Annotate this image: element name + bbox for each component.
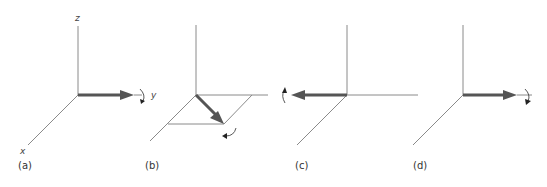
panel-label-c: (c) <box>295 160 308 171</box>
x-axis-label: x <box>19 146 26 156</box>
y-axis-label: y <box>150 90 157 100</box>
vector-rotation-figure: z y x (a) (b) (c) (d) <box>0 0 547 187</box>
panel-d: (d) <box>413 25 532 171</box>
x-axis <box>28 95 78 145</box>
z-axis-label: z <box>74 13 80 23</box>
panel-label-d: (d) <box>413 160 427 171</box>
diagonal-vector <box>196 95 216 115</box>
vector-arrowhead <box>291 90 305 100</box>
vector-arrowhead <box>503 90 517 100</box>
panel-label-b: (b) <box>145 160 159 171</box>
x-axis <box>413 95 463 145</box>
panel-a: z y x (a) <box>18 13 157 171</box>
x-axis <box>297 95 347 145</box>
panel-c: (c) <box>282 25 417 171</box>
x-axis <box>150 95 196 141</box>
panel-b: (b) <box>145 25 268 171</box>
vector-arrowhead <box>120 90 134 100</box>
rotation-arrow-icon <box>226 128 236 136</box>
panel-label-a: (a) <box>18 160 32 171</box>
parallelogram-edge <box>224 95 252 124</box>
